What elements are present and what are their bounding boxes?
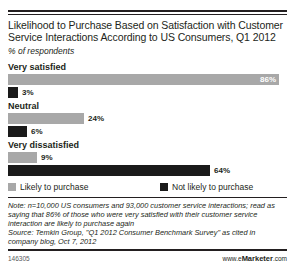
page-title: Likelihood to Purchase Based on Satisfac… (8, 19, 287, 44)
bar-value-label: 24% (84, 114, 104, 123)
bar-not-likely-neutral (8, 126, 27, 137)
brand-name: Marketer (242, 254, 273, 263)
bar-likely-very-satisfied: 86% (8, 74, 279, 85)
emarketer-brand: www.eMarketer.com (222, 254, 287, 263)
bar-likely-very-dissatisfied (8, 152, 37, 163)
legend-label: Not likely to purchase (172, 182, 253, 192)
legend-item-not-likely: Not likely to purchase (160, 182, 253, 192)
legend-item-likely: Likely to purchase (8, 182, 160, 192)
bar-value-label: 86% (260, 75, 279, 84)
group-label: Very dissatisfied (8, 140, 287, 151)
note-text: Note: n=10,000 US consumers and 93,000 c… (8, 201, 287, 229)
group-label: Neutral (8, 101, 287, 112)
bar-row: 86% (8, 74, 287, 85)
brand-suffix: .com (273, 255, 287, 262)
bar-row: 64% (8, 165, 287, 176)
bar-row: 9% (8, 152, 287, 163)
source-text: Source: Temkin Group, "Q1 2012 Consumer … (8, 228, 287, 246)
brand-prefix: www.e (222, 255, 241, 262)
bar-value-label: 3% (18, 88, 34, 97)
footer-rule (8, 249, 287, 251)
bar-value-label: 6% (27, 127, 43, 136)
bar-value-label: 64% (210, 166, 230, 175)
bar-not-likely-very-dissatisfied (8, 165, 210, 176)
chart-footer: 146305 www.eMarketer.com (8, 254, 287, 263)
chart-subtitle: % of respondents (8, 46, 287, 56)
group-label: Very satisfied (8, 62, 287, 73)
bar-row: 3% (8, 87, 287, 98)
chart-legend: Likely to purchase Not likely to purchas… (8, 182, 287, 192)
bar-not-likely-very-satisfied (8, 87, 18, 98)
notes-divider (8, 197, 287, 198)
bar-group-neutral: Neutral 24% 6% (8, 101, 287, 137)
bar-row: 24% (8, 113, 287, 124)
bar-likely-neutral (8, 113, 84, 124)
chart-card: Likelihood to Purchase Based on Satisfac… (0, 0, 295, 272)
chart-id: 146305 (8, 255, 30, 262)
legend-label: Likely to purchase (20, 182, 89, 192)
bar-value-label: 9% (37, 153, 53, 162)
bar-group-very-dissatisfied: Very dissatisfied 9% 64% (8, 140, 287, 176)
chart-notes: Note: n=10,000 US consumers and 93,000 c… (8, 201, 287, 247)
top-rule (8, 10, 287, 15)
bar-group-very-satisfied: Very satisfied 86% 3% (8, 62, 287, 98)
legend-swatch-icon (8, 183, 16, 191)
bar-row: 6% (8, 126, 287, 137)
bar-chart-plot: Very satisfied 86% 3% Neutral 24% 6% (8, 62, 287, 179)
legend-swatch-icon (160, 183, 168, 191)
